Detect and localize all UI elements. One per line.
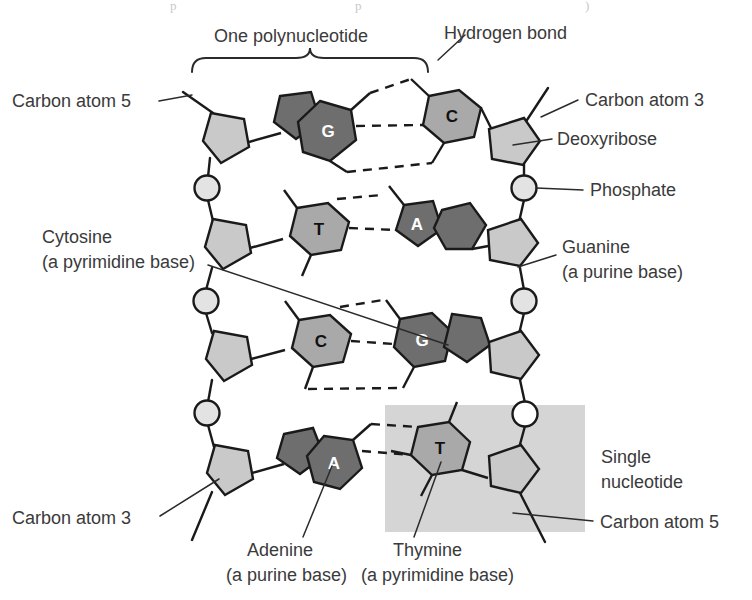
label-guanine-line2: (a purine base) (562, 262, 683, 282)
label-adenine-line1: Adenine (247, 540, 313, 560)
phosphate-left-2 (194, 289, 219, 314)
label-thymine-line2: (a pyrimidine base) (361, 565, 514, 585)
label-one-polynucleotide: One polynucleotide (214, 26, 368, 46)
phosphate-left-3 (195, 401, 220, 426)
label-hydrogen-bond: Hydrogen bond (444, 23, 567, 43)
cropped-text-remnant-2: p (355, 0, 362, 13)
label-cytosine-line1: Cytosine (42, 227, 112, 247)
base-letter-G-row1: G (321, 122, 334, 141)
label-adenine-line2: (a purine base) (226, 565, 347, 585)
base-letter-T-row2: T (314, 220, 325, 239)
label-carbon-atom-5-bottom: Carbon atom 5 (600, 512, 719, 532)
dna-diagram-figure: p p ) (0, 0, 752, 600)
phosphate-right-1 (512, 176, 537, 201)
label-carbon-atom-5-top: Carbon atom 5 (12, 91, 131, 111)
label-thymine-line1: Thymine (393, 540, 462, 560)
phosphate-left-1 (195, 176, 220, 201)
dna-diagram-svg: p p ) (0, 0, 752, 600)
cropped-text-remnant-3: ) (585, 0, 589, 13)
single-nucleotide-highlight-box (385, 405, 585, 532)
cropped-text-remnant: p (170, 0, 177, 13)
label-phosphate: Phosphate (590, 180, 676, 200)
phosphate-right-2 (512, 289, 537, 314)
phosphate-right-3 (513, 402, 538, 427)
label-single-nucleotide-line1: Single (601, 447, 651, 467)
label-carbon-atom-3-bottom: Carbon atom 3 (12, 508, 131, 528)
label-carbon-atom-3-top: Carbon atom 3 (585, 90, 704, 110)
base-letter-T-row4: T (435, 439, 446, 458)
label-cytosine-line2: (a pyrimidine base) (42, 252, 195, 272)
base-letter-A-row2: A (411, 215, 423, 234)
base-letter-C-row1: C (446, 107, 458, 126)
label-single-nucleotide-line2: nucleotide (601, 472, 683, 492)
label-deoxyribose: Deoxyribose (557, 129, 657, 149)
label-guanine-line1: Guanine (562, 237, 630, 257)
base-letter-G-row3: G (415, 331, 428, 350)
base-letter-C-row3: C (315, 332, 327, 351)
